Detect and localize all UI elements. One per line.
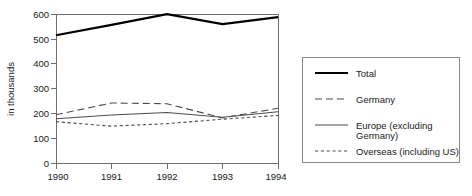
x-tick-label-1994: 1994 bbox=[265, 171, 286, 182]
y-tick-label-0: 0 bbox=[44, 158, 49, 169]
y-tick-marks bbox=[51, 14, 56, 163]
chart-svg: in thousands 0 100 200 300 400 500 600 bbox=[0, 0, 472, 196]
legend-label-europe-line2[interactable]: Germany) bbox=[356, 130, 398, 141]
legend-label-germany[interactable]: Germany bbox=[356, 94, 395, 105]
y-tick-label-400: 400 bbox=[33, 58, 49, 69]
y-tick-label-100: 100 bbox=[33, 133, 49, 144]
legend-label-total[interactable]: Total bbox=[356, 68, 376, 79]
x-tick-label-1990: 1990 bbox=[47, 171, 68, 182]
line-chart: in thousands 0 100 200 300 400 500 600 bbox=[0, 0, 472, 196]
series-line-germany bbox=[56, 103, 278, 118]
series-line-overseas bbox=[56, 115, 278, 126]
y-tick-label-500: 500 bbox=[33, 34, 49, 45]
series-line-europe bbox=[56, 112, 278, 119]
legend-label-europe[interactable]: Europe (excluding bbox=[356, 120, 433, 131]
y-tick-label-600: 600 bbox=[33, 9, 49, 20]
series-line-total bbox=[56, 14, 278, 35]
y-tick-label-300: 300 bbox=[33, 83, 49, 94]
y-axis-title: in thousands bbox=[5, 62, 16, 116]
legend-label-overseas[interactable]: Overseas (including US) bbox=[356, 146, 459, 157]
x-tick-label-1991: 1991 bbox=[101, 171, 122, 182]
x-tick-label-1992: 1992 bbox=[156, 171, 177, 182]
y-tick-label-200: 200 bbox=[33, 108, 49, 119]
chart-legend: Total Germany Europe (excluding Germany)… bbox=[303, 58, 460, 163]
x-tick-marks bbox=[56, 164, 278, 169]
x-tick-label-1993: 1993 bbox=[212, 171, 233, 182]
